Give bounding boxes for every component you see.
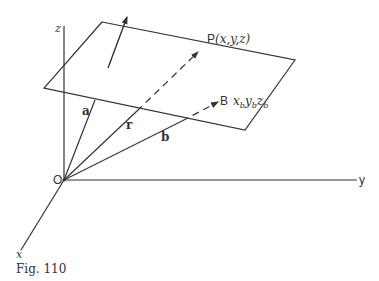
- vector-r-dashed: [137, 52, 198, 111]
- vector-b-dashed: [182, 102, 218, 121]
- vector-plane-diagram: z y x O a r b P(x,y,z) B xbybzb Fig. 110: [0, 0, 379, 281]
- z-axis-label: z: [54, 22, 61, 35]
- vector-b-label: b: [161, 130, 169, 144]
- origin-point: [62, 178, 65, 181]
- figure-caption: Fig. 110: [16, 262, 66, 276]
- vector-a: [64, 100, 95, 180]
- y-axis-label: y: [359, 173, 365, 187]
- point-b-label: B xbybzb: [220, 94, 268, 110]
- origin-label: O: [53, 173, 62, 187]
- point-p-label: P(x,y,z): [207, 32, 251, 46]
- vector-a-label: a: [82, 104, 90, 118]
- vector-r-label: r: [126, 118, 133, 132]
- x-axis-label: x: [16, 248, 23, 261]
- x-axis: [21, 180, 64, 250]
